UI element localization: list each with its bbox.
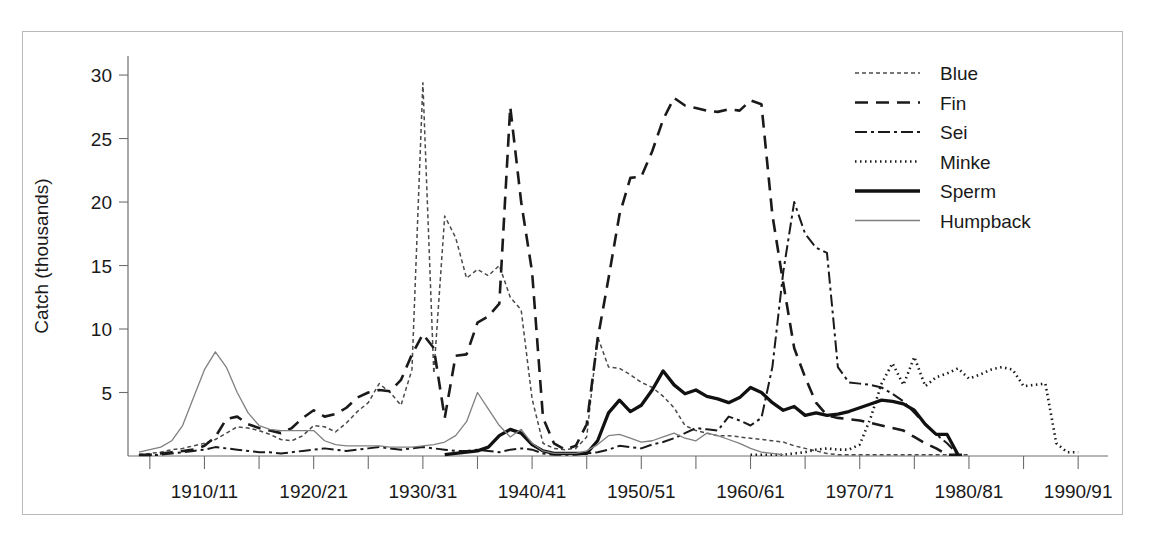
- series-line-fin: [139, 98, 969, 455]
- x-tick-label: 1970/71: [825, 481, 894, 502]
- series-line-minke: [751, 357, 1079, 455]
- series-line-humpback: [139, 352, 783, 455]
- whale-catch-line-chart: 51015202530Catch (thousands)1910/111920/…: [0, 0, 1155, 544]
- x-tick-label: 1980/81: [935, 481, 1004, 502]
- legend-label-fin[interactable]: Fin: [940, 93, 966, 114]
- legend-label-humpback[interactable]: Humpback: [940, 211, 1031, 232]
- x-tick-label: 1930/31: [389, 481, 458, 502]
- legend-label-sei[interactable]: Sei: [940, 122, 967, 143]
- x-tick-label: 1950/51: [607, 481, 676, 502]
- legend-label-minke[interactable]: Minke: [940, 152, 991, 173]
- y-tick-label: 15: [91, 256, 112, 277]
- x-tick-label: 1940/41: [498, 481, 567, 502]
- x-tick-label: 1960/61: [716, 481, 785, 502]
- legend-label-sperm[interactable]: Sperm: [940, 181, 996, 202]
- y-axis-label: Catch (thousands): [31, 178, 52, 333]
- x-tick-label: 1920/21: [279, 481, 348, 502]
- y-tick-label: 5: [101, 383, 112, 404]
- figure-container: 51015202530Catch (thousands)1910/111920/…: [0, 0, 1155, 544]
- x-tick-label: 1910/11: [171, 481, 238, 502]
- x-tick-label: 1990/91: [1044, 481, 1113, 502]
- y-tick-label: 10: [91, 319, 112, 340]
- series-line-blue: [139, 83, 969, 455]
- y-tick-label: 30: [91, 65, 112, 86]
- legend-label-blue[interactable]: Blue: [940, 63, 978, 84]
- y-tick-label: 25: [91, 129, 112, 150]
- y-tick-label: 20: [91, 192, 112, 213]
